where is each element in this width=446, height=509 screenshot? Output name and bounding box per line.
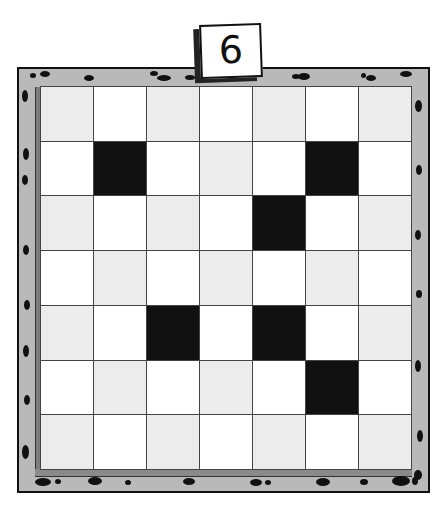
grid-cell-r4-c4[interactable]: [253, 306, 305, 360]
frame-spot: [360, 479, 368, 485]
frame-spot: [24, 395, 30, 405]
grid-cell-r6-c1[interactable]: [94, 415, 146, 469]
puzzle-number-card: 6: [199, 23, 263, 79]
grid-cell-r3-c3[interactable]: [200, 251, 252, 305]
grid-cell-r6-c0[interactable]: [41, 415, 93, 469]
grid-cell-r5-c5[interactable]: [306, 361, 358, 415]
grid-cell-r0-c0[interactable]: [41, 87, 93, 141]
grid-cell-r5-c6[interactable]: [359, 361, 411, 415]
grid-cell-r5-c2[interactable]: [147, 361, 199, 415]
grid-cell-r2-c4[interactable]: [253, 196, 305, 250]
grid-cell-r1-c2[interactable]: [147, 142, 199, 196]
frame-spot: [416, 165, 422, 175]
grid-cell-r3-c2[interactable]: [147, 251, 199, 305]
frame-spot: [416, 290, 422, 298]
grid-cell-r6-c5[interactable]: [306, 415, 358, 469]
frame-spot: [316, 478, 330, 486]
frame-spot: [392, 476, 410, 486]
frame-spot: [415, 100, 422, 112]
grid-cell-r0-c4[interactable]: [253, 87, 305, 141]
frame-spot: [415, 230, 421, 240]
grid-cell-r5-c3[interactable]: [200, 361, 252, 415]
grid-cell-r2-c5[interactable]: [306, 196, 358, 250]
frame-spot: [250, 479, 262, 486]
grid-cell-r0-c1[interactable]: [94, 87, 146, 141]
frame-spot: [265, 480, 271, 485]
grid-cell-r6-c4[interactable]: [253, 415, 305, 469]
grid-cell-r6-c6[interactable]: [359, 415, 411, 469]
grid-cell-r5-c4[interactable]: [253, 361, 305, 415]
grid-cell-r5-c0[interactable]: [41, 361, 93, 415]
frame-spot: [22, 90, 28, 102]
grid-cell-r6-c2[interactable]: [147, 415, 199, 469]
grid-cell-r1-c5[interactable]: [306, 142, 358, 196]
grid-cell-r2-c0[interactable]: [41, 196, 93, 250]
frame-spot: [24, 300, 30, 310]
frame-spot: [22, 175, 28, 185]
frame-spot: [23, 148, 29, 160]
grid-cell-r3-c0[interactable]: [41, 251, 93, 305]
frame-spot: [125, 480, 131, 485]
grid-cell-r0-c3[interactable]: [200, 87, 252, 141]
board-bevel-bottom: [35, 469, 412, 477]
frame-spot: [183, 478, 195, 485]
frame-spot: [412, 477, 418, 485]
grid-cell-r1-c4[interactable]: [253, 142, 305, 196]
frame-spot: [157, 75, 171, 81]
grid-cell-r3-c6[interactable]: [359, 251, 411, 305]
grid-cell-r2-c2[interactable]: [147, 196, 199, 250]
grid-cell-r3-c5[interactable]: [306, 251, 358, 305]
grid-cell-r3-c1[interactable]: [94, 251, 146, 305]
frame-spot: [298, 73, 310, 80]
grid-cell-r5-c1[interactable]: [94, 361, 146, 415]
grid-cell-r4-c6[interactable]: [359, 306, 411, 360]
grid-cell-r0-c6[interactable]: [359, 87, 411, 141]
frame-spot: [417, 430, 423, 442]
grid-cell-r1-c6[interactable]: [359, 142, 411, 196]
grid-cell-r4-c3[interactable]: [200, 306, 252, 360]
grid-cell-r6-c3[interactable]: [200, 415, 252, 469]
grid-cell-r3-c4[interactable]: [253, 251, 305, 305]
frame-spot: [84, 75, 94, 81]
grid-cell-r1-c0[interactable]: [41, 142, 93, 196]
grid-cell-r2-c6[interactable]: [359, 196, 411, 250]
grid-cell-r4-c5[interactable]: [306, 306, 358, 360]
frame-spot: [23, 345, 29, 357]
frame-spot: [366, 75, 376, 81]
frame-spot: [400, 71, 412, 77]
grid-cell-r1-c3[interactable]: [200, 142, 252, 196]
frame-spot: [55, 479, 61, 484]
grid-cell-r4-c1[interactable]: [94, 306, 146, 360]
frame-spot: [40, 71, 50, 77]
grid-cell-r0-c5[interactable]: [306, 87, 358, 141]
frame-spot: [30, 73, 36, 78]
grid-cell-r4-c2[interactable]: [147, 306, 199, 360]
puzzle-grid: [40, 86, 412, 470]
frame-spot: [88, 477, 102, 485]
frame-spot: [22, 445, 29, 459]
grid-cell-r4-c0[interactable]: [41, 306, 93, 360]
frame-spot: [150, 71, 158, 76]
frame-spot: [415, 360, 421, 372]
frame-spot: [185, 75, 195, 80]
grid-cell-r0-c2[interactable]: [147, 87, 199, 141]
frame-spot: [23, 245, 29, 255]
grid-cell-r1-c1[interactable]: [94, 142, 146, 196]
grid-cell-r2-c3[interactable]: [200, 196, 252, 250]
grid-cell-r2-c1[interactable]: [94, 196, 146, 250]
puzzle-number: 6: [201, 25, 261, 75]
frame-spot: [35, 478, 51, 486]
